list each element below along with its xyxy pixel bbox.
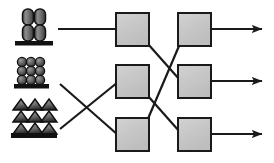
diagram-canvas (0, 0, 274, 163)
capsule-stack-icon (15, 9, 53, 46)
edge-source3-to-stage1-middle (60, 82, 118, 129)
edge-stage1-top-to-stage2-middle (148, 44, 179, 79)
capsule-base-bar (15, 41, 53, 46)
triangle-r2c1 (13, 111, 29, 122)
sphere-r1c1 (17, 57, 26, 66)
sphere-r3c3 (35, 75, 44, 84)
edge-stage1-bottom-to-stage2-top (147, 46, 179, 121)
stage1-node-top[interactable] (116, 13, 149, 46)
stage1-node-middle[interactable] (116, 65, 149, 98)
sphere-r2c1 (17, 66, 26, 75)
sphere-r3c1 (17, 75, 26, 84)
triangle-r1c2 (27, 99, 43, 110)
sphere-r3c2 (26, 75, 35, 84)
stage2-node-middle[interactable] (178, 65, 211, 98)
stage2-nodes-group (178, 13, 211, 151)
triangle-r3c1 (13, 123, 29, 134)
stage2-node-bottom[interactable] (178, 118, 211, 151)
triangle-r3c3 (41, 123, 57, 134)
triangle-r2c2 (27, 111, 43, 122)
sphere-base-bar (14, 84, 49, 89)
stage2-node-top[interactable] (178, 13, 211, 46)
output-edges-group (211, 29, 262, 134)
capsule-top-right (35, 9, 46, 25)
stage1-nodes-group (116, 13, 149, 151)
sphere-grid-icon (14, 57, 49, 88)
capsule-top-left (23, 9, 34, 25)
sphere-r2c3 (35, 66, 44, 75)
edge-source2-to-stage1-bottom (60, 84, 118, 135)
capsule-bottom-right (35, 25, 46, 41)
triangle-base-bar (11, 133, 57, 138)
input-edges-group (58, 29, 118, 135)
sphere-r1c2 (26, 57, 35, 66)
triangle-stack-icon (11, 99, 57, 138)
capsule-bottom-left (23, 25, 34, 41)
stage1-node-bottom[interactable] (116, 118, 149, 151)
triangle-r1c3 (41, 99, 57, 110)
diagram-svg (0, 0, 274, 163)
edge-stage1-middle-to-stage2-bottom (148, 96, 179, 131)
triangle-r3c2 (27, 123, 43, 134)
triangle-r1c1 (13, 99, 29, 110)
triangle-r2c3 (41, 111, 57, 122)
middle-edges-group (147, 44, 179, 131)
sphere-r1c3 (35, 57, 44, 66)
sphere-r2c2 (26, 66, 35, 75)
